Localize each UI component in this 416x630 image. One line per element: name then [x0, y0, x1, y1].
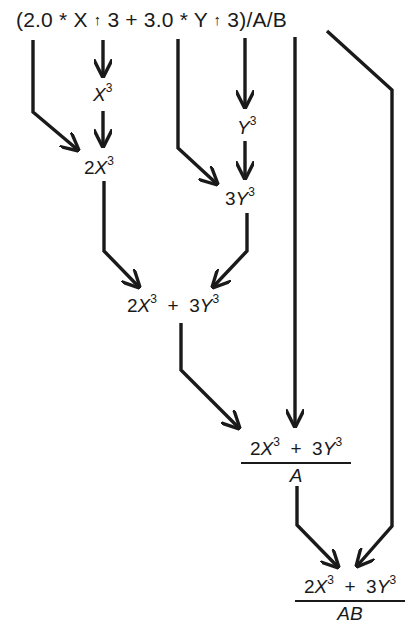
- expr-part-1: (2.0 * X: [16, 8, 88, 31]
- fraction-denominator: AB: [295, 602, 405, 625]
- edge-frac-a-to-frac-ab: [297, 486, 338, 567]
- power-operator-icon: ↑: [214, 11, 222, 28]
- fraction-numerator: 2X3 + 3Y3: [295, 573, 405, 602]
- fraction-numerator: 2X3 + 3Y3: [241, 435, 351, 464]
- node-2x-cubed: 2X3: [84, 154, 114, 179]
- node-3y-cubed: 3Y3: [225, 185, 255, 210]
- edge-coef2-to-2x3: [33, 40, 78, 150]
- edge-coef3-to-3y3: [178, 39, 217, 184]
- node-fraction-over-ab: 2X3 + 3Y3 AB: [295, 573, 405, 625]
- power-operator-icon: ↑: [94, 11, 102, 28]
- node-y-cubed: Y3: [237, 114, 256, 139]
- expr-part-3: 3)/A/B: [227, 8, 287, 31]
- node-fraction-over-a: 2X3 + 3Y3 A: [241, 435, 351, 487]
- edge-sum-to-frac-a: [181, 323, 239, 428]
- node-sum: 2X3 + 3Y3: [127, 292, 219, 317]
- expr-part-2: 3 + 3.0 * Y: [107, 8, 207, 31]
- edge-3y3-to-sum: [213, 213, 247, 287]
- edge-2x3-to-sum: [104, 181, 139, 287]
- source-expression: (2.0 * X ↑ 3 + 3.0 * Y ↑ 3)/A/B: [16, 8, 287, 32]
- fraction-denominator: A: [241, 464, 351, 487]
- node-x-cubed: X3: [93, 81, 112, 106]
